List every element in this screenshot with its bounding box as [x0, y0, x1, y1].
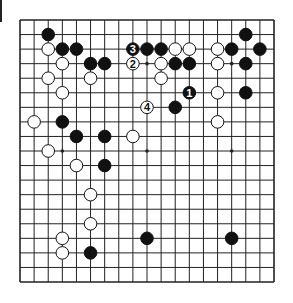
- white-stone: [169, 43, 182, 56]
- white-stone: [155, 72, 168, 85]
- star-point: [230, 62, 234, 66]
- black-stone: [98, 130, 111, 143]
- black-stone: [254, 43, 267, 56]
- star-point: [230, 149, 234, 153]
- white-stone: [84, 188, 97, 201]
- black-stone: [239, 86, 252, 99]
- black-stone: [98, 57, 111, 70]
- black-stone: [239, 57, 252, 70]
- black-stone: [56, 116, 69, 129]
- white-stone: [84, 72, 97, 85]
- black-stone: [155, 43, 168, 56]
- black-stone: [141, 232, 154, 245]
- move-number-label: 4: [144, 101, 151, 113]
- white-stone: [211, 43, 224, 56]
- black-stone: [56, 43, 69, 56]
- go-board-svg: 3214: [0, 0, 293, 303]
- black-stone: [169, 57, 182, 70]
- white-stone: [155, 57, 168, 70]
- move-number-label: 1: [186, 87, 192, 99]
- black-stone: [239, 28, 252, 41]
- move-number-label: 3: [130, 43, 136, 55]
- white-stone: [56, 57, 69, 70]
- white-stone: [70, 159, 83, 172]
- black-stone: [84, 57, 97, 70]
- white-stone: [211, 86, 224, 99]
- white-stone: [42, 43, 55, 56]
- white-stone: [56, 86, 69, 99]
- move-number-label: 2: [130, 58, 136, 70]
- white-stone: [183, 43, 196, 56]
- black-stone: [84, 247, 97, 260]
- white-stone: [42, 145, 55, 158]
- star-point: [145, 62, 149, 66]
- go-board: 3214: [0, 0, 293, 303]
- white-stone: [211, 57, 224, 70]
- white-stone: [211, 116, 224, 129]
- white-stone: [84, 217, 97, 230]
- black-stone: [98, 159, 111, 172]
- white-stone: [42, 72, 55, 85]
- white-stone: [127, 130, 140, 143]
- star-point: [145, 149, 149, 153]
- black-stone: [70, 130, 83, 143]
- white-stone: [56, 247, 69, 260]
- black-stone: [42, 28, 55, 41]
- black-stone: [183, 57, 196, 70]
- black-stone: [141, 43, 154, 56]
- white-stone: [56, 232, 69, 245]
- black-stone: [225, 232, 238, 245]
- black-stone: [169, 101, 182, 114]
- black-stone: [225, 43, 238, 56]
- black-stone: [70, 43, 83, 56]
- white-stone: [28, 116, 41, 129]
- star-point: [61, 149, 65, 153]
